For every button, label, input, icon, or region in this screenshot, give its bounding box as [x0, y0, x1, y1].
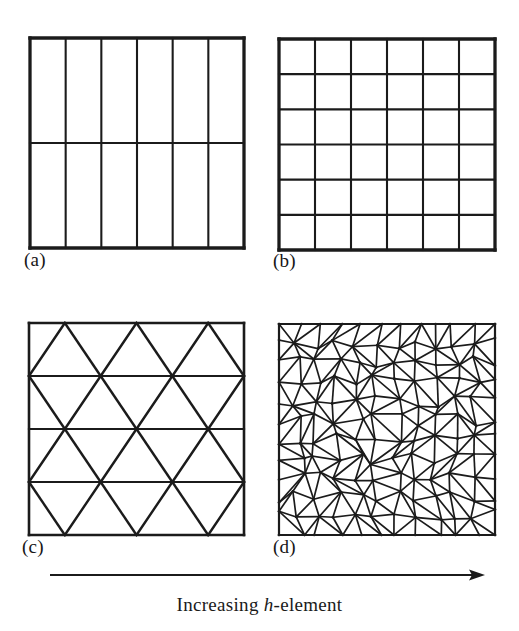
figure-caption: Increasing h-element — [0, 594, 519, 616]
mesh-refinement-figure: (a) (b) (c) (d) Increasing h-element — [0, 0, 519, 631]
panel-label-c: (c) — [22, 537, 44, 556]
mesh-panel-c — [26, 320, 247, 538]
mesh-panel-a — [27, 35, 247, 251]
increasing-h-element-arrow — [40, 562, 490, 590]
panel-label-d: (d) — [273, 537, 296, 556]
panel-label-b: (b) — [273, 251, 296, 270]
panel-label-a: (a) — [24, 250, 46, 269]
mesh-panel-b — [276, 36, 498, 253]
mesh-panel-d — [276, 321, 498, 538]
caption-suffix: -element — [274, 594, 343, 615]
caption-prefix: Increasing — [177, 594, 264, 615]
caption-symbol-h: h — [264, 594, 274, 615]
